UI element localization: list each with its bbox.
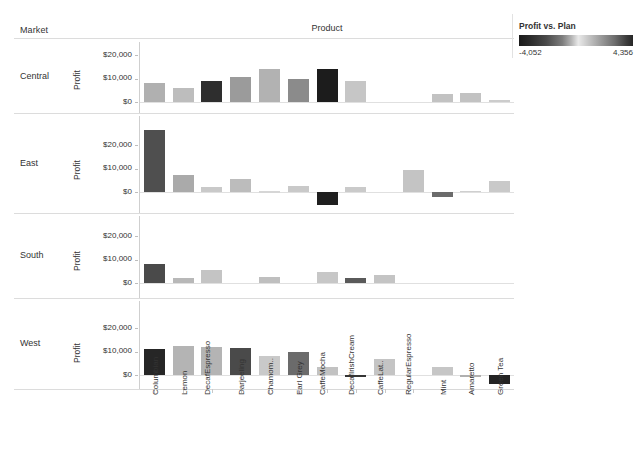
- x-axis-label[interactable]: Mint: [439, 380, 448, 395]
- bar[interactable]: [144, 130, 165, 192]
- bar[interactable]: [259, 69, 280, 102]
- bar[interactable]: [230, 77, 251, 102]
- y-axis-title-west: Profit: [72, 343, 82, 363]
- bar[interactable]: [259, 277, 280, 283]
- bar[interactable]: [460, 191, 481, 193]
- bar[interactable]: [489, 100, 510, 102]
- market-row-label-west[interactable]: West: [20, 338, 40, 348]
- bar[interactable]: [201, 187, 222, 192]
- bar[interactable]: [345, 187, 366, 192]
- bar[interactable]: [489, 181, 510, 192]
- bar[interactable]: [288, 79, 309, 103]
- bar[interactable]: [259, 191, 280, 193]
- bar[interactable]: [374, 275, 395, 283]
- bar[interactable]: [432, 94, 453, 102]
- y-tick-label: $20,000: [86, 232, 132, 240]
- bar[interactable]: [432, 192, 453, 197]
- legend-title: Profit vs. Plan: [519, 21, 635, 31]
- x-tick-mark: [413, 389, 414, 393]
- bar[interactable]: [230, 179, 251, 192]
- x-axis-label[interactable]: DecafEspresso: [203, 341, 212, 395]
- zero-baseline: [140, 375, 514, 376]
- y-axis-title-east: Profit: [72, 160, 82, 180]
- bar[interactable]: [173, 175, 194, 192]
- bar[interactable]: [144, 83, 165, 102]
- panel-divider: [14, 213, 514, 214]
- bar[interactable]: [317, 192, 338, 205]
- market-row-label-south[interactable]: South: [20, 250, 44, 260]
- y-tick-label: $10,000: [86, 347, 132, 355]
- profit-by-product-and-market-chart: Market Product Profit vs. Plan -4,052 4,…: [0, 0, 639, 454]
- y-tick-label: $0: [86, 371, 132, 379]
- y-tick-label: $0: [86, 279, 132, 287]
- x-tick-mark: [327, 389, 328, 393]
- bar[interactable]: [460, 93, 481, 102]
- bar[interactable]: [317, 69, 338, 102]
- y-tick-label: $10,000: [86, 74, 132, 82]
- x-axis-label[interactable]: CaffeMocha: [318, 352, 327, 395]
- y-axis-line: [139, 116, 140, 213]
- x-axis-label[interactable]: Green Tea: [496, 358, 505, 395]
- legend-max-label: 4,356: [613, 48, 633, 57]
- zero-baseline: [140, 102, 514, 103]
- x-axis-label[interactable]: CaffeLat..: [376, 360, 385, 395]
- y-tick-mark: [135, 55, 138, 56]
- y-tick-mark: [135, 102, 138, 103]
- zero-baseline: [140, 283, 514, 284]
- bar[interactable]: [345, 278, 366, 283]
- y-tick-label: $10,000: [86, 164, 132, 172]
- bar[interactable]: [345, 81, 366, 102]
- y-tick-label: $0: [86, 188, 132, 196]
- y-tick-label: $20,000: [86, 141, 132, 149]
- y-tick-mark: [135, 375, 138, 376]
- x-axis-label[interactable]: RegularEspresso: [404, 334, 413, 395]
- market-dimension-header: Market: [20, 25, 48, 35]
- bar[interactable]: [201, 81, 222, 102]
- x-tick-mark: [212, 389, 213, 393]
- y-tick-mark: [135, 328, 138, 329]
- y-tick-mark: [135, 283, 138, 284]
- y-tick-mark: [135, 260, 138, 261]
- y-tick-mark: [135, 236, 138, 237]
- x-axis-label[interactable]: DecafIrishCream: [347, 335, 356, 395]
- legend-midpoint-tick: [575, 49, 576, 62]
- y-tick-mark: [135, 79, 138, 80]
- bar[interactable]: [288, 186, 309, 192]
- market-row-label-central[interactable]: Central: [20, 71, 49, 81]
- x-axis-label[interactable]: Amaretto: [467, 363, 476, 395]
- x-axis-label[interactable]: Earl Grey: [295, 361, 304, 395]
- y-tick-label: $10,000: [86, 255, 132, 263]
- x-axis-label[interactable]: Darjeeling: [237, 359, 246, 395]
- bar[interactable]: [403, 170, 424, 192]
- y-axis-line: [139, 216, 140, 298]
- legend-min-label: -4,052: [519, 48, 542, 57]
- y-tick-mark: [135, 192, 138, 193]
- y-tick-mark: [135, 145, 138, 146]
- color-legend[interactable]: Profit vs. Plan -4,052 4,356: [519, 21, 635, 57]
- y-tick-label: $20,000: [86, 324, 132, 332]
- top-clipped-row: [0, 0, 639, 12]
- x-axis-label[interactable]: Chamom..: [266, 358, 275, 395]
- panel-divider: [14, 298, 514, 299]
- bar[interactable]: [432, 367, 453, 375]
- legend-gradient-ramp[interactable]: [519, 35, 633, 46]
- x-axis-label[interactable]: Columbian: [151, 357, 160, 395]
- bar[interactable]: [317, 272, 338, 283]
- product-dimension-header: Product: [140, 23, 514, 33]
- y-tick-mark: [135, 352, 138, 353]
- panel-divider: [14, 113, 514, 114]
- bar[interactable]: [173, 278, 194, 283]
- bar[interactable]: [144, 264, 165, 283]
- legend-divider: [512, 14, 513, 58]
- x-axis-label[interactable]: Lemon: [180, 371, 189, 395]
- y-axis-title-central: Profit: [72, 70, 82, 90]
- bar[interactable]: [173, 88, 194, 102]
- bar[interactable]: [201, 270, 222, 283]
- y-tick-label: $0: [86, 98, 132, 106]
- header-divider: [14, 38, 514, 39]
- y-axis-title-south: Profit: [72, 251, 82, 271]
- market-row-label-east[interactable]: East: [20, 158, 38, 168]
- y-tick-mark: [135, 169, 138, 170]
- y-tick-label: $20,000: [86, 51, 132, 59]
